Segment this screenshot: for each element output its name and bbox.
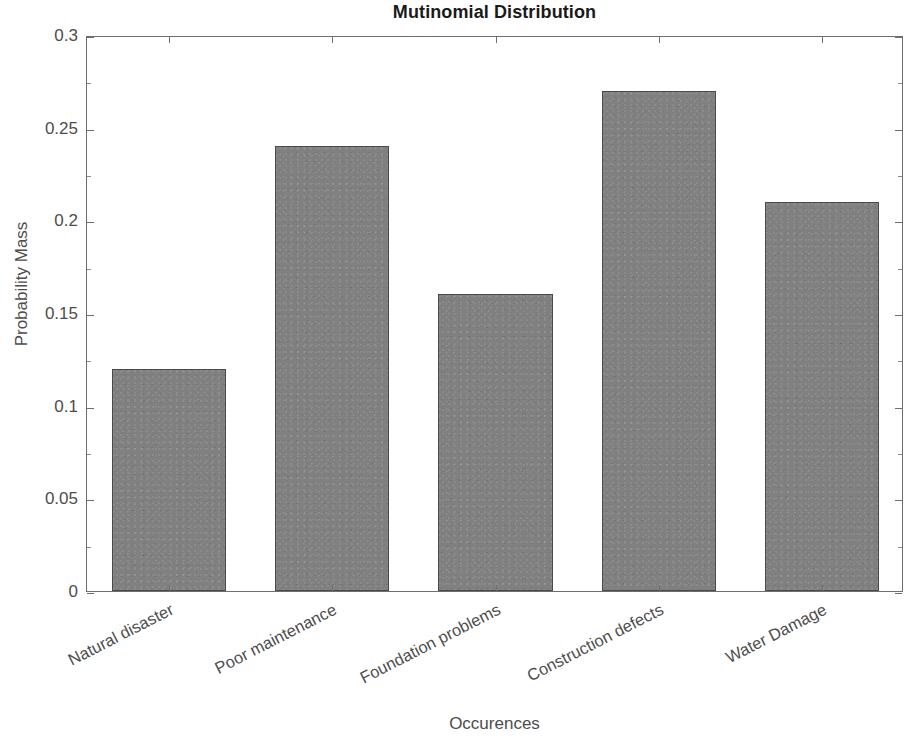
y-tick-minor bbox=[87, 361, 91, 362]
y-tick-label: 0.3 bbox=[54, 26, 78, 46]
y-tick-label: 0.15 bbox=[45, 304, 78, 324]
y-tick-minor bbox=[87, 83, 91, 84]
y-tick-minor bbox=[898, 83, 902, 84]
x-tick-mark bbox=[332, 585, 333, 591]
bar bbox=[765, 202, 879, 591]
y-tick-minor bbox=[898, 547, 902, 548]
y-tick-mark-right bbox=[895, 408, 902, 409]
y-tick-label: 0.25 bbox=[45, 119, 78, 139]
x-tick-mark bbox=[822, 585, 823, 591]
y-tick-minor bbox=[898, 361, 902, 362]
bar bbox=[438, 294, 552, 591]
y-tick-label: 0.1 bbox=[54, 397, 78, 417]
bar bbox=[602, 91, 716, 591]
x-tick-mark-top bbox=[332, 37, 333, 43]
x-tick-mark-top bbox=[659, 37, 660, 43]
y-tick-label: 0.2 bbox=[54, 211, 78, 231]
bar bbox=[112, 369, 226, 591]
y-tick-mark-right bbox=[895, 315, 902, 316]
y-tick-minor bbox=[87, 547, 91, 548]
x-tick-mark-top bbox=[496, 37, 497, 43]
y-tick-minor bbox=[87, 176, 91, 177]
x-tick-mark bbox=[169, 585, 170, 591]
x-tick-mark-top bbox=[822, 37, 823, 43]
y-tick-minor bbox=[898, 176, 902, 177]
y-tick-mark-right bbox=[895, 37, 902, 38]
y-tick-mark bbox=[87, 315, 94, 316]
chart-figure: Mutinomial Distribution 00.050.10.150.20… bbox=[0, 0, 905, 748]
x-tick-mark-top bbox=[169, 37, 170, 43]
y-tick-mark-right bbox=[895, 500, 902, 501]
y-tick-mark-right bbox=[895, 130, 902, 131]
x-tick-mark bbox=[659, 585, 660, 591]
y-tick-mark bbox=[87, 408, 94, 409]
y-tick-mark bbox=[87, 130, 94, 131]
y-tick-mark bbox=[87, 222, 94, 223]
y-tick-minor bbox=[87, 269, 91, 270]
x-axis-tick-label-row: Natural disasterPoor maintenanceFoundati… bbox=[86, 592, 903, 702]
x-axis-title: Occurences bbox=[86, 714, 903, 734]
chart-title: Mutinomial Distribution bbox=[86, 2, 903, 23]
y-tick-mark bbox=[87, 500, 94, 501]
y-axis-title: Probability Mass bbox=[12, 154, 32, 414]
y-tick-minor bbox=[898, 269, 902, 270]
y-tick-minor bbox=[87, 454, 91, 455]
plot-frame bbox=[86, 36, 903, 592]
y-tick-label: 0.05 bbox=[45, 489, 78, 509]
y-tick-mark bbox=[87, 37, 94, 38]
bar bbox=[275, 146, 389, 591]
plot-area bbox=[87, 37, 902, 591]
y-tick-mark-right bbox=[895, 222, 902, 223]
y-tick-label: 0 bbox=[69, 582, 78, 602]
y-tick-minor bbox=[898, 454, 902, 455]
x-tick-mark bbox=[496, 585, 497, 591]
